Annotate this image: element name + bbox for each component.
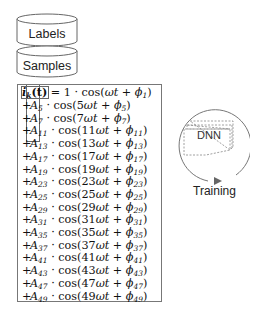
equation-term: +A49 · cos(49ωt + ϕ49) [22,290,147,306]
dnn-label: DNN [197,129,221,141]
training-cycle-arc [179,110,250,181]
samples-store: Samples [16,45,78,78]
labels-store: Labels [16,13,78,47]
training-label: Training [193,184,236,198]
harmonic-equation-box: ik(t) = 1 · cos(ωt + ϕ1) +A5 · cos(5ωt +… [17,84,162,302]
labels-store-label: Labels [16,27,78,41]
samples-store-label: Samples [16,59,78,73]
